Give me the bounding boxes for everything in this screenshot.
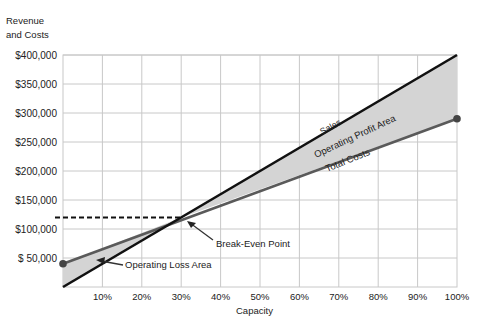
x-tick-label: 40% — [211, 291, 231, 302]
y-tick-label: $ 50,000 — [18, 253, 57, 264]
x-axis-ticks: 10%20%30%40%50%60%70%80%90%100% — [93, 291, 470, 302]
y-axis-label-line2: and Costs — [6, 29, 49, 40]
y-tick-label: $400,000 — [15, 50, 57, 61]
break-even-arrow — [187, 221, 213, 240]
x-tick-label: 30% — [172, 291, 192, 302]
y-axis-label-line1: Revenue — [6, 15, 44, 26]
x-tick-label: 50% — [250, 291, 270, 302]
y-axis-ticks: $400,000$350,000$300,000$250,000$200,000… — [15, 50, 57, 264]
x-tick-label: 20% — [132, 291, 152, 302]
x-tick-label: 80% — [369, 291, 389, 302]
operating-loss-area-label: Operating Loss Area — [125, 259, 212, 270]
x-tick-label: 90% — [408, 291, 428, 302]
y-tick-label: $350,000 — [15, 79, 57, 90]
break-even-chart: $400,000$350,000$300,000$250,000$200,000… — [0, 0, 492, 334]
y-tick-label: $200,000 — [15, 166, 57, 177]
x-tick-label: 70% — [329, 291, 349, 302]
x-tick-label: 10% — [93, 291, 113, 302]
y-tick-label: $300,000 — [15, 108, 57, 119]
y-tick-label: $150,000 — [15, 195, 57, 206]
x-axis-label: Capacity — [236, 305, 273, 316]
y-tick-label: $100,000 — [15, 224, 57, 235]
total-costs-end-marker — [453, 115, 461, 123]
break-even-point-label: Break-Even Point — [216, 238, 290, 249]
total-costs-start-marker — [59, 260, 67, 268]
x-tick-label: 60% — [290, 291, 310, 302]
x-tick-label: 100% — [445, 291, 470, 302]
y-tick-label: $250,000 — [15, 137, 57, 148]
